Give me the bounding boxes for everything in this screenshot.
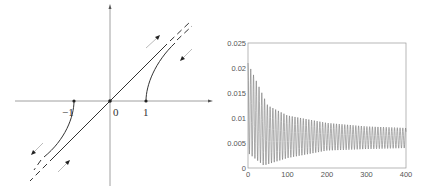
x-tick-label: 300: [360, 170, 373, 179]
curve-one-dash: [177, 26, 192, 40]
y-tick-label: 0.01: [231, 114, 246, 123]
flow-arrow-upper-right: [180, 49, 192, 61]
y-tick-label: 0.02: [231, 64, 246, 73]
curve-from-one: [146, 43, 175, 101]
y-tick-label: 0.025: [227, 39, 246, 48]
diagonal-dash-lower: [30, 164, 47, 181]
oscillation-line: [248, 63, 406, 165]
label-neg-one: −1: [62, 106, 74, 118]
flow-arrow-lower-right: [58, 160, 70, 172]
x-tick-label: 0: [246, 170, 250, 179]
label-one: 1: [143, 106, 149, 118]
point-neg-one: [72, 99, 75, 102]
flow-arrow-lower-left: [31, 143, 43, 155]
y-axis-arrow-icon: [109, 4, 112, 9]
y-tick-label: 0.015: [227, 89, 246, 98]
point-one: [144, 99, 147, 102]
phase-diagram: [15, 4, 213, 186]
x-tick-labels: 0100200300400: [246, 170, 412, 179]
x-tick-label: 400: [400, 170, 413, 179]
diagonal-line: [50, 44, 167, 161]
figure: −1 0 1 00.0050.010.0150.020.025 01002003…: [0, 0, 430, 193]
diagonal-dash-upper: [170, 22, 190, 41]
y-tick-label: 0.005: [227, 139, 246, 148]
x-tick-label: 200: [321, 170, 334, 179]
oscillation-chart: 00.0050.010.0150.020.025 0100200300400: [227, 39, 412, 180]
x-axis-arrow-icon: [208, 100, 213, 103]
oscillation-series: [248, 63, 406, 165]
y-tick-labels: 00.0050.010.0150.020.025: [227, 39, 246, 173]
point-origin: [108, 99, 112, 103]
label-zero: 0: [113, 106, 119, 118]
curve-neg-one-dash: [34, 160, 41, 170]
x-tick-label: 100: [281, 170, 294, 179]
flow-arrow-upper-left: [146, 35, 160, 48]
